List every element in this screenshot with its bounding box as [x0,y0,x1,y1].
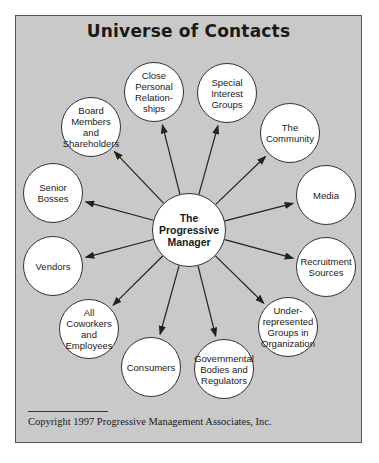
arrow-to-close-personal [162,125,180,194]
arrow-to-community [216,157,266,205]
arrow-to-senior-bosses [86,202,153,220]
contact-node-governmental: Governmental Bodies and Regulators [194,339,254,399]
arrow-to-coworkers [113,256,163,305]
contact-node-community: The Community [260,103,320,163]
arrow-to-media [225,203,293,220]
arrow-to-underrepresented [215,256,263,303]
contact-node-board: Board Members and Shareholders [61,97,121,157]
arrow-to-vendors [86,239,153,257]
contact-node-senior-bosses: Senior Bosses [23,163,83,223]
arrow-to-recruitment [225,240,293,258]
contact-node-recruitment: Recruitment Sources [296,237,356,297]
contact-node-close-personal: Close Personal Relation- ships [124,62,184,122]
copyright-text: Copyright 1997 Progressive Management As… [28,416,272,427]
contact-node-vendors: Vendors [23,236,83,296]
arrow-to-board [114,152,163,204]
contact-node-consumers: Consumers [121,337,181,397]
footnote-rule [28,411,108,412]
contact-node-underrepresented: Under- represented Groups in Organizatio… [258,297,318,357]
center-node-progressive-manager: The Progressive Manager [152,193,226,267]
arrow-to-consumers [160,266,179,335]
contact-node-media: Media [296,165,356,225]
arrow-to-special-interest [199,126,218,195]
contact-node-coworkers: All Coworkers and Employees [59,299,119,359]
arrow-to-governmental [198,266,216,336]
contact-node-special-interest: Special Interest Groups [197,63,257,123]
